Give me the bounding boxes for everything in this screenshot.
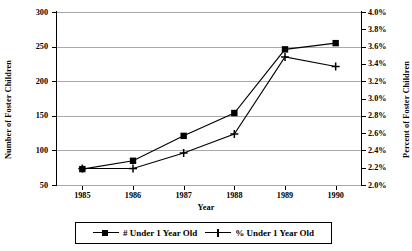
data-point-square: [130, 158, 136, 164]
chart-figure: Number of Foster Children Percent of Fos…: [0, 0, 412, 251]
series-line-percent: [82, 57, 335, 169]
legend-label-count: # Under 1 Year Old: [123, 228, 197, 238]
data-point-plus: [281, 53, 289, 61]
data-point-plus: [129, 165, 137, 173]
data-point-square: [282, 46, 288, 52]
series-layer: [0, 0, 412, 251]
square-marker-icon: [93, 228, 119, 238]
data-point-plus: [180, 149, 188, 157]
data-point-square: [231, 110, 237, 116]
chart-legend: # Under 1 Year Old % Under 1 Year Old: [75, 222, 332, 244]
series-line-count: [82, 43, 335, 169]
legend-entry-percent: % Under 1 Year Old: [205, 228, 314, 238]
legend-label-percent: % Under 1 Year Old: [235, 228, 314, 238]
data-point-plus: [332, 62, 340, 70]
data-point-square: [332, 40, 338, 46]
data-point-plus: [230, 130, 238, 138]
plus-marker-icon: [205, 228, 231, 238]
data-point-square: [180, 133, 186, 139]
legend-entry-count: # Under 1 Year Old: [93, 228, 197, 238]
